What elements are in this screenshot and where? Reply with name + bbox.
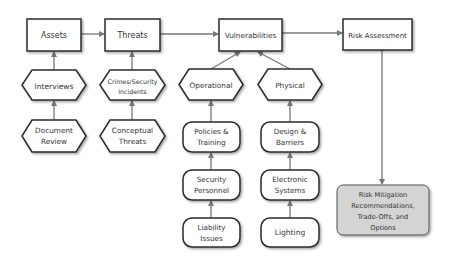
conceptual-threats-label-line1: Conceptual (112, 126, 153, 135)
interviews-label: Interviews (35, 82, 74, 91)
electronic-systems-box[interactable]: Electronic Systems (261, 170, 319, 200)
diagram-canvas: Assets Threats Vulnerabilities Risk Asse… (0, 0, 452, 259)
threats-box[interactable]: Threats (105, 19, 160, 51)
security-personnel-box[interactable]: Security Personnel (183, 170, 240, 200)
crimes-security-incidents-hexagon[interactable]: Crimes/Security Incidents (100, 70, 165, 100)
electronic-systems-label-line2: Systems (275, 186, 306, 195)
interviews-hexagon[interactable]: Interviews (22, 70, 86, 100)
threats-label: Threats (116, 31, 147, 40)
risk-mitigation-label-line2: Recommendations, (351, 202, 414, 210)
liability-issues-box[interactable]: Liability Issues (183, 218, 240, 247)
liability-issues-label-line2: Issues (200, 234, 223, 243)
physical-hexagon[interactable]: Physical (258, 69, 322, 100)
risk-assessment-box[interactable]: Risk Assessment (343, 19, 412, 50)
security-personnel-label-line2: Personnel (194, 186, 229, 195)
conceptual-threats-hexagon[interactable]: Conceptual Threats (100, 120, 165, 152)
edge-operational-vulnerabilities (211, 52, 240, 69)
document-review-hexagon[interactable]: Document Review (22, 120, 86, 152)
risk-mitigation-box[interactable]: Risk Mitigation Recommendations, Trade-O… (337, 185, 429, 235)
risk-mitigation-label-line3: Trade-Offs, and (357, 213, 408, 221)
conceptual-threats-label-line2: Threats (118, 137, 147, 146)
security-personnel-label-line1: Security (197, 175, 227, 184)
design-barriers-box[interactable]: Design & Barriers (261, 122, 319, 152)
policies-training-label-line2: Training (196, 138, 225, 147)
electronic-systems-label-line1: Electronic (272, 175, 307, 184)
vulnerabilities-box[interactable]: Vulnerabilities (219, 19, 282, 51)
operational-label: Operational (190, 81, 233, 90)
crimes-label-line2: Incidents (118, 88, 147, 95)
document-review-label-line2: Review (41, 137, 67, 146)
liability-issues-label-line1: Liability (197, 223, 226, 232)
assets-box[interactable]: Assets (27, 19, 81, 51)
policies-training-label-line1: Policies & (194, 127, 229, 136)
physical-label: Physical (275, 81, 305, 90)
document-review-label-line1: Document (35, 126, 73, 135)
lighting-label: Lighting (275, 228, 306, 237)
design-barriers-label-line2: Barriers (276, 138, 304, 147)
vulnerabilities-label: Vulnerabilities (225, 31, 277, 40)
risk-mitigation-label-line1: Risk Mitigation (359, 191, 408, 199)
risk-assessment-label: Risk Assessment (348, 32, 407, 40)
assets-label: Assets (41, 31, 67, 40)
operational-hexagon[interactable]: Operational (179, 69, 243, 100)
crimes-label-line1: Crimes/Security (107, 78, 157, 86)
policies-training-box[interactable]: Policies & Training (183, 122, 240, 152)
lighting-box[interactable]: Lighting (261, 218, 319, 247)
risk-mitigation-label-line4: Options (370, 224, 396, 232)
edge-physical-vulnerabilities (258, 52, 290, 69)
design-barriers-label-line1: Design & (274, 127, 307, 136)
